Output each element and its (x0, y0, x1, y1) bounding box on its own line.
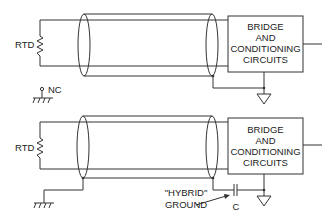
top-rtd-resistor-icon (37, 36, 43, 56)
capacitor-label: C (233, 201, 240, 212)
top-rtd-wires (37, 20, 84, 66)
bottom-shielded-cable (77, 116, 228, 178)
bottom-hybrid-ground (212, 174, 271, 206)
bottom-box-line-2: AND (255, 135, 275, 146)
bottom-box-line-3: CONDITIONING (230, 146, 300, 157)
top-box-line-3: CONDITIONING (230, 43, 300, 54)
top-nc-label: NC (48, 84, 62, 95)
top-rtd-label: RTD (15, 39, 34, 50)
bottom-circuit: RTD BRIDGE AND CONDITIONING CIRCUITS (15, 116, 322, 212)
top-shield-drain (212, 72, 271, 104)
top-signal-ground-icon (257, 94, 271, 104)
top-box-line-1: BRIDGE (247, 21, 283, 32)
bottom-earth-ground-icon (34, 203, 54, 208)
bottom-box-line-4: CIRCUITS (243, 157, 288, 168)
hybrid-ground-label-line-2: GROUND (165, 199, 207, 210)
shielded-rtd-grounding-diagram: RTD BRIDGE AND CONDITIONING CIRCUITS (0, 0, 335, 222)
top-shielded-cable (78, 14, 228, 76)
top-cable-shield-left-icon (78, 14, 90, 76)
top-box-line-4: CIRCUITS (243, 54, 288, 65)
bottom-rtd-wires (37, 122, 83, 169)
bottom-rtd-resistor-icon (37, 138, 43, 158)
bottom-box-line-1: BRIDGE (247, 124, 283, 135)
bottom-signal-ground-icon (257, 196, 271, 206)
hybrid-ground-label-line-1: "HYBRID" (165, 187, 208, 198)
bottom-shield-earth-link (44, 177, 84, 203)
top-circuit: RTD BRIDGE AND CONDITIONING CIRCUITS (15, 14, 322, 104)
bottom-rtd-label: RTD (15, 142, 34, 153)
top-cable-shield-right-icon (206, 14, 218, 76)
top-box-line-2: AND (255, 32, 275, 43)
